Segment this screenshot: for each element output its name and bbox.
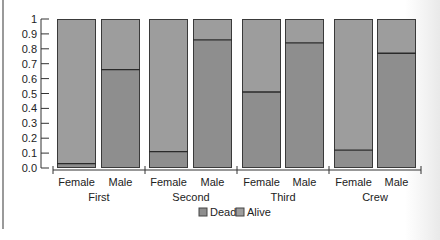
y-tick-label: 0.9 [22,28,37,40]
x-category-label: Female [150,176,187,188]
legend-label: Alive [247,206,271,218]
y-tick-label: 0.6 [22,73,37,85]
bar-third-male [285,19,324,168]
y-tick-label: 0.2 [22,132,37,144]
x-category-label: Female [58,176,95,188]
stacked-bar-chart: 0.00.10.20.30.40.50.60.70.80.91 FemaleMa… [0,0,440,229]
bar-first-male [101,19,140,168]
bar-crew-male [377,19,416,168]
bar-crew-female [334,19,373,168]
x-axis: FemaleMaleFemaleMaleFemaleMaleFemaleMale… [53,166,421,203]
dead-segment [377,53,416,168]
alive-segment [149,19,188,152]
x-category-label: Male [109,176,133,188]
y-tick-label: 0.4 [22,102,37,114]
y-axis: 0.00.10.20.30.40.50.60.70.80.91 [22,13,49,174]
legend-item-alive: Alive [236,206,271,218]
alive-segment [242,19,281,92]
x-category-label: Female [335,176,372,188]
y-tick-label: 0.3 [22,117,37,129]
y-tick-label: 1 [31,13,37,25]
alive-segment [377,19,416,53]
x-group-label: Second [172,191,209,203]
y-tick-label: 0.0 [22,162,37,174]
legend-label: Dead [210,206,236,218]
y-tick-label: 0.1 [22,147,37,159]
alive-segment [334,19,373,150]
legend-item-dead: Dead [199,206,236,218]
alive-segment [193,19,232,40]
y-tick-label: 0.5 [22,88,37,100]
dead-segment [101,70,140,168]
dead-segment [193,40,232,168]
bar-second-male [193,19,232,168]
y-tick-label: 0.8 [22,43,37,55]
x-category-label: Male [293,176,317,188]
alive-segment [101,19,140,70]
dead-segment [334,150,373,168]
dead-segment [242,92,281,168]
alive-segment [57,19,96,164]
dead-segment [285,43,324,168]
x-category-label: Male [385,176,409,188]
bar-second-female [149,19,188,168]
x-group-label: Third [270,191,295,203]
bar-first-female [57,19,96,168]
x-group-label: First [88,191,109,203]
legend: DeadAlive [199,206,271,218]
bars [57,19,416,168]
x-category-label: Female [243,176,280,188]
bar-third-female [242,19,281,168]
dead-segment [149,152,188,168]
alive-segment [285,19,324,43]
x-group-label: Crew [362,191,388,203]
legend-swatch [199,208,207,216]
x-category-label: Male [201,176,225,188]
legend-swatch [236,208,244,216]
y-tick-label: 0.7 [22,58,37,70]
